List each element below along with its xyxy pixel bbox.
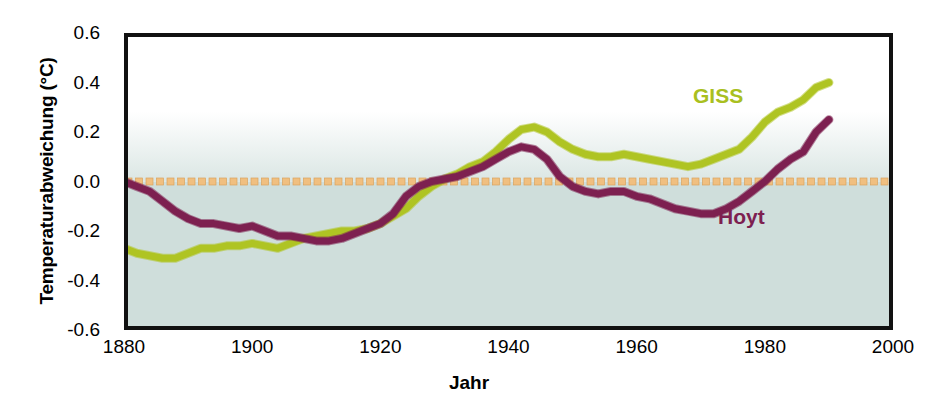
x-tick-label: 1940 — [469, 336, 549, 358]
y-tick-label: -0.4 — [28, 271, 100, 290]
y-tick-label: 0.4 — [28, 73, 100, 92]
chart-figure: Temperaturabweichung (°C) Jahr 0.60.40.2… — [0, 0, 938, 413]
x-tick-label: 1880 — [84, 336, 164, 358]
y-tick-label: 0.6 — [28, 23, 100, 42]
y-tick-label: -0.2 — [28, 221, 100, 240]
y-tick-label: 0.2 — [28, 122, 100, 141]
x-tick-label: 1900 — [212, 336, 292, 358]
x-tick-label: 2000 — [853, 336, 933, 358]
series-label-hoyt: Hoyt — [718, 205, 765, 229]
x-tick-label: 1920 — [340, 336, 420, 358]
x-axis-title: Jahr — [0, 372, 938, 394]
series-label-giss: GISS — [693, 84, 743, 108]
x-tick-label: 1960 — [597, 336, 677, 358]
y-tick-label: 0.0 — [28, 172, 100, 191]
background-below-zero — [124, 182, 893, 331]
plot-area — [124, 33, 893, 330]
series-canvas — [124, 33, 893, 330]
x-tick-label: 1980 — [725, 336, 805, 358]
